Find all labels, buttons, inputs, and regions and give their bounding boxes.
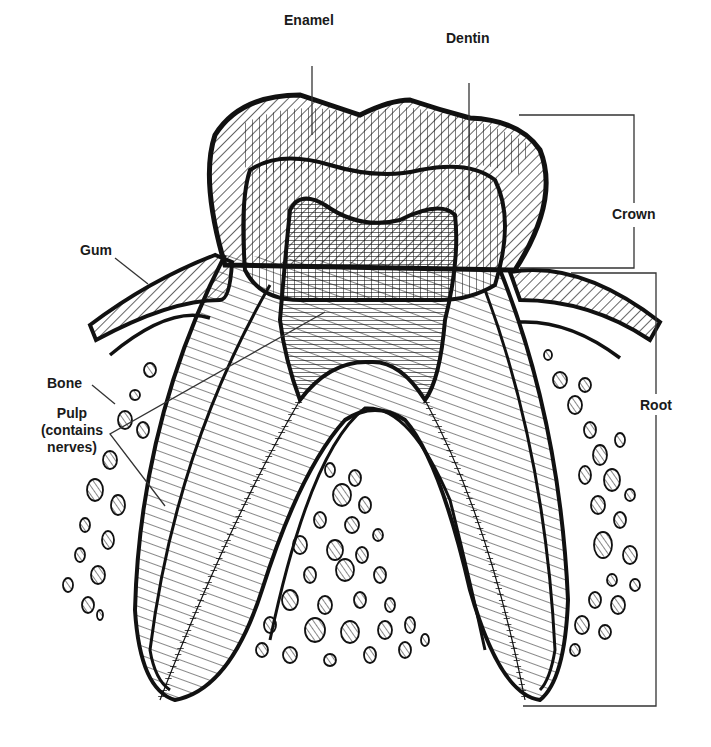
label-enamel: Enamel	[284, 12, 334, 29]
gum-right	[510, 270, 660, 358]
label-pulp-line3: nerves)	[34, 439, 110, 456]
bone-leader	[92, 385, 115, 404]
label-pulp-line2: (contains	[34, 422, 110, 439]
label-pulp-line1: Pulp	[34, 405, 110, 422]
gum-leader	[115, 258, 148, 284]
tooth-body	[135, 95, 568, 700]
tooth-diagram	[0, 0, 711, 747]
label-gum: Gum	[80, 242, 112, 259]
label-bone: Bone	[47, 375, 82, 392]
label-root: Root	[640, 397, 672, 414]
label-dentin: Dentin	[446, 30, 490, 47]
label-crown: Crown	[612, 206, 656, 223]
label-pulp: Pulp (contains nerves)	[34, 405, 110, 456]
